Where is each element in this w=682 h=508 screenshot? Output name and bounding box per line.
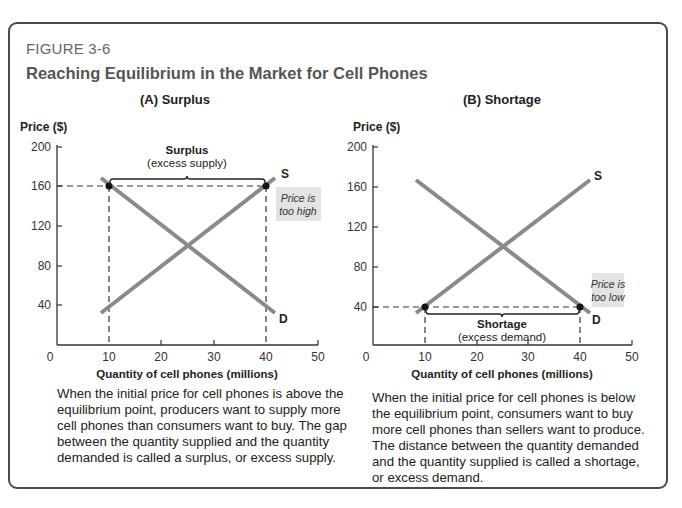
panel-a-surplus: (A) Surplus Price ($) 200 160 120 80 40 … — [20, 92, 325, 380]
panel-b-title: (B) Shortage — [463, 92, 541, 107]
panel-a-caption: When the initial price for cell phones i… — [57, 386, 357, 466]
panel-a-ytick-80: 80 — [38, 259, 52, 273]
panel-b-ytick-120: 120 — [347, 220, 367, 234]
panel-b-xtick-40: 40 — [573, 350, 587, 364]
panel-a-demand-label: D — [279, 312, 288, 326]
panel-b-xtick-0: 0 — [363, 350, 370, 364]
panel-a-tag-line1: Price is — [281, 192, 316, 204]
panel-b-ytick-200: 200 — [347, 140, 367, 154]
panel-a-gap-label-line2: (excess supply) — [147, 157, 227, 169]
panel-b-gap-label-line2: (excess demand) — [458, 331, 546, 343]
panel-b-ytick-80: 80 — [354, 260, 368, 274]
panel-a-xtick-20: 20 — [154, 350, 168, 364]
panel-a-quantity-supplied-point — [263, 183, 270, 190]
panel-a-ytick-160: 160 — [31, 179, 51, 193]
panel-b-tag-line1: Price is — [591, 278, 626, 290]
panel-b-supply-label: S — [594, 169, 602, 183]
panel-a-y-axis-label: Price ($) — [20, 120, 67, 134]
panel-a-supply-label: S — [281, 167, 289, 181]
panel-a-x-axis-label: Quantity of cell phones (millions) — [96, 368, 278, 380]
panel-a-ytick-200: 200 — [31, 140, 51, 154]
panel-b-y-axis-label: Price ($) — [353, 120, 400, 134]
panel-b-ytick-160: 160 — [347, 180, 367, 194]
panel-a-xtick-10: 10 — [102, 350, 116, 364]
panel-a-xtick-50: 50 — [311, 350, 325, 364]
panel-b-gap-label-line1: Shortage — [477, 318, 527, 330]
panel-b-shortage-brace — [426, 307, 579, 317]
panel-a-tag-line2: too high — [279, 205, 317, 217]
panel-b-caption: When the initial price for cell phones i… — [372, 390, 647, 486]
panel-b-shortage: (B) Shortage Price ($) 200 160 120 80 40… — [347, 92, 639, 380]
panel-a-surplus-brace — [110, 176, 265, 186]
panel-a-xtick-0: 0 — [47, 350, 54, 364]
panel-b-xtick-50: 50 — [625, 350, 639, 364]
panel-a-xtick-40: 40 — [259, 350, 273, 364]
panel-b-tag-line2: too low — [591, 291, 626, 303]
panel-a-ytick-120: 120 — [31, 219, 51, 233]
panel-b-xtick-30: 30 — [521, 350, 535, 364]
panel-b-xtick-10: 10 — [418, 350, 432, 364]
panel-b-quantity-supplied-point — [422, 304, 429, 311]
panel-a-quantity-demanded-point — [106, 183, 113, 190]
panel-b-ytick-40: 40 — [354, 300, 368, 314]
panel-b-xtick-20: 20 — [470, 350, 484, 364]
panel-a-title: (A) Surplus — [140, 92, 210, 107]
panel-a-ytick-40: 40 — [38, 298, 52, 312]
panel-a-gap-label-line1: Surplus — [166, 144, 209, 156]
panel-b-x-axis-label: Quantity of cell phones (millions) — [411, 368, 593, 380]
panel-b-quantity-demanded-point — [577, 304, 584, 311]
panel-a-xtick-30: 30 — [207, 350, 221, 364]
panel-b-demand-label: D — [592, 313, 601, 327]
